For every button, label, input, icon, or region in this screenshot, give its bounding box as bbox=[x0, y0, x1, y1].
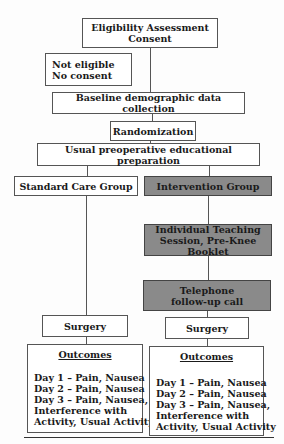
surgery-left-box: Surgery bbox=[42, 315, 128, 337]
telephone-line2: follow-up call bbox=[171, 296, 243, 307]
baseline-box: Baseline demographic data collection bbox=[52, 92, 245, 114]
outcomes-right-box: Outcomes Day 1 – Pain, Nausea Day 2 – Pa… bbox=[149, 346, 264, 436]
eligibility-line2: Consent bbox=[91, 33, 209, 44]
bottom-rule bbox=[24, 437, 274, 438]
outcomes-right-item: Day 1 – Pain, Nausea bbox=[156, 377, 257, 388]
connector-intervention-teaching bbox=[208, 196, 209, 224]
connector-surgery-outcomes-left bbox=[86, 337, 87, 344]
eligibility-box: Eligibility Assessment Consent bbox=[82, 18, 218, 48]
outcomes-right-item: Activity, Usual Activity bbox=[156, 421, 257, 432]
connector-usual-standard bbox=[87, 166, 88, 176]
telephone-line1: Telephone bbox=[171, 285, 243, 296]
surgery-right-box: Surgery bbox=[165, 317, 249, 339]
outcomes-left-item: Activity, Usual Activity bbox=[34, 416, 136, 427]
connector-standard-surgery bbox=[86, 196, 87, 315]
outcomes-left-title: Outcomes bbox=[34, 349, 136, 360]
connector-baseline-randomization bbox=[152, 114, 153, 121]
randomization-box: Randomization bbox=[110, 121, 196, 141]
usual-prep-label: Usual preoperative educational preparati… bbox=[38, 144, 259, 166]
teaching-box: Individual Teaching Session, Pre-Knee Bo… bbox=[144, 224, 272, 256]
randomization-label: Randomization bbox=[113, 126, 194, 137]
baseline-label: Baseline demographic data collection bbox=[53, 92, 244, 114]
eligibility-line1: Eligibility Assessment bbox=[91, 22, 209, 33]
outcomes-right-item: Day 2 – Pain, Nausea bbox=[156, 388, 257, 399]
outcomes-left-item: Day 1 – Pain, Nausea bbox=[34, 372, 136, 383]
not-eligible-line2: No consent bbox=[52, 70, 115, 81]
intervention-label: Intervention Group bbox=[157, 181, 260, 192]
not-eligible-box: Not eligible No consent bbox=[45, 53, 132, 86]
outcomes-right-item: Interference with bbox=[156, 410, 257, 421]
intervention-box: Intervention Group bbox=[144, 176, 272, 196]
teaching-line1: Individual Teaching bbox=[145, 224, 271, 235]
teaching-line2: Session, Pre-Knee Booklet bbox=[145, 235, 271, 257]
telephone-box: Telephone follow-up call bbox=[143, 280, 271, 311]
outcomes-right-title: Outcomes bbox=[156, 351, 257, 362]
standard-care-label: Standard Care Group bbox=[19, 181, 132, 192]
connector-usual-intervention bbox=[209, 166, 210, 176]
connector-teaching-telephone bbox=[208, 256, 209, 280]
usual-prep-box: Usual preoperative educational preparati… bbox=[37, 143, 260, 166]
connector-eligibility-baseline bbox=[150, 48, 151, 92]
connector-surgery-outcomes-right bbox=[207, 339, 208, 346]
outcomes-left-item: Interference with bbox=[34, 405, 136, 416]
outcomes-left-item: Day 3 – Pain, Nausea, bbox=[34, 394, 136, 405]
not-eligible-line1: Not eligible bbox=[52, 59, 115, 70]
outcomes-left-box: Outcomes Day 1 – Pain, Nausea Day 2 – Pa… bbox=[27, 344, 143, 433]
surgery-right-label: Surgery bbox=[186, 323, 228, 334]
standard-care-box: Standard Care Group bbox=[14, 176, 138, 196]
outcomes-right-item: Day 3 – Pain, Nausea, bbox=[156, 399, 257, 410]
surgery-left-label: Surgery bbox=[64, 321, 106, 332]
outcomes-left-item: Day 2 – Pain, Nausea bbox=[34, 383, 136, 394]
